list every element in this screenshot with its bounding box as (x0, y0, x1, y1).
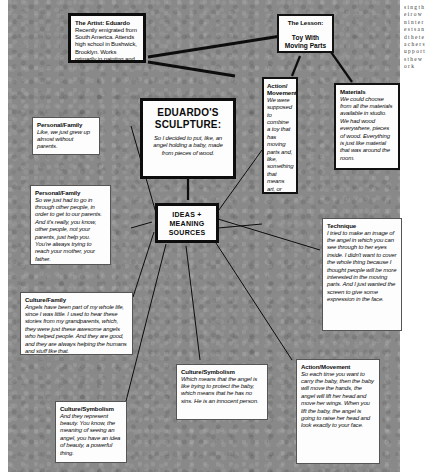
node-the-artist-header: The Artist: Eduardo (75, 19, 139, 27)
screenshot-page: The Artist: Eduardo Recently emigrated f… (0, 0, 425, 472)
node-culture-symbolism-mid-header: Culture/Symbolism (181, 368, 263, 376)
edge-ideas-to-culture-symbolism-mid (186, 246, 200, 360)
node-personal-family-1[interactable]: Personal/Family Like, we just grew up al… (32, 117, 100, 155)
node-action-movement-top-header: Action/ Movement (267, 82, 293, 97)
node-technique-body: I tried to make an image of the angel in… (327, 230, 397, 304)
node-personal-family-1-header: Personal/Family (37, 121, 95, 129)
edge-ideas-to-technique-2 (218, 219, 320, 250)
edge-ideas-to-culture-family (133, 232, 154, 297)
edge-ideas-to-action-bottom (214, 240, 292, 360)
node-ideas-meaning-sources[interactable]: IDEAS + MEANING SOURCES (155, 203, 219, 243)
node-culture-symbolism-mid-body: Which means that the angel is like tryin… (181, 376, 263, 406)
node-culture-symbolism-left-header: Culture/Symbolism (60, 405, 122, 413)
node-the-lesson[interactable]: The Lesson: Toy With Moving Parts (277, 14, 334, 53)
node-culture-family-header: Culture/Family (25, 296, 128, 304)
node-materials-body: We could choose from all the materials a… (340, 96, 394, 163)
edge-lesson-to-action (292, 56, 300, 76)
node-eduardos-sculpture-body: So I decided to put, like, an angel hold… (148, 135, 228, 157)
edge-artist-to-sculpture (148, 62, 235, 76)
node-eduardos-sculpture-title: EDUARDO'S SCULPTURE: (148, 107, 228, 130)
node-action-movement-bottom-header: Action/Movement (301, 363, 375, 371)
node-culture-family[interactable]: Culture/Family Angels have been part of … (20, 292, 133, 355)
node-action-movement-bottom[interactable]: Action/Movement So each time you want to… (296, 359, 380, 464)
node-action-movement-top[interactable]: Action/ Movement We were supposed to com… (262, 77, 298, 194)
node-materials-header: Materials (340, 88, 394, 96)
node-the-artist-body: Recently emigrated from South America. A… (75, 27, 139, 63)
node-technique-header: Technique (327, 222, 397, 230)
node-personal-family-2-header: Personal/Family (35, 189, 106, 197)
node-the-lesson-header: The Lesson: (283, 19, 328, 27)
node-culture-symbolism-left[interactable]: Culture/Symbolism And they represent bea… (55, 401, 127, 463)
edge-lesson-to-materials (331, 52, 352, 82)
node-personal-family-2[interactable]: Personal/Family So we just had to go in … (30, 185, 111, 265)
node-personal-family-1-body: Like, we just grew up almost without par… (37, 129, 95, 151)
node-the-lesson-subtitle: Toy With Moving Parts (283, 34, 328, 50)
edge-ideas-to-personal2 (131, 222, 152, 228)
node-technique[interactable]: Technique I tried to make an image of th… (322, 218, 402, 331)
node-personal-family-2-body: So we just had to go in through other pe… (35, 197, 106, 264)
edge-artist-to-lesson (148, 36, 281, 57)
node-culture-symbolism-mid[interactable]: Culture/Symbolism Which means that the a… (176, 364, 268, 420)
node-culture-symbolism-left-body: And they represent beauty. You know, the… (60, 413, 122, 457)
page-margin-text: s i n g t h e i r o w n i n t e r e s t … (404, 4, 425, 344)
node-ideas-meaning-sources-title: IDEAS + MEANING SOURCES (162, 210, 212, 237)
node-materials[interactable]: Materials We could choose from all the m… (334, 83, 400, 170)
node-action-movement-top-body: We were supposed to combine a toy that h… (267, 97, 293, 194)
node-culture-family-body: Angels have been part of my whole life, … (25, 304, 128, 355)
node-the-artist[interactable]: The Artist: Eduardo Recently emigrated f… (68, 13, 146, 63)
node-action-movement-bottom-body: So each time you want to carry the baby,… (301, 371, 375, 430)
node-eduardos-sculpture[interactable]: EDUARDO'S SCULPTURE: So I decided to put… (140, 98, 236, 179)
